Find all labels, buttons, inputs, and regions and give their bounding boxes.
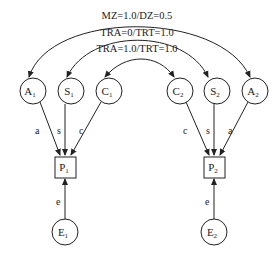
path-label-e2: e — [205, 196, 210, 207]
path-label-a2: a — [228, 125, 233, 136]
node-C2: C2 — [167, 78, 193, 104]
node-C1: C1 — [96, 78, 122, 104]
path-label-s2: s — [206, 125, 210, 136]
arc-C1-C2 — [105, 59, 174, 77]
path-label-c1: c — [79, 125, 84, 136]
arc-label-outer: MZ=1.0/DZ=0.5 — [102, 10, 173, 21]
arc-label-inner: TRA=1.0/TRT=1.0 — [96, 43, 177, 54]
node-S2: S2 — [204, 78, 230, 104]
path-label-s1: s — [57, 125, 61, 136]
path-label-c2: c — [183, 125, 188, 136]
arc-label-middle: TRA=0/TRT=1.0 — [100, 27, 173, 38]
path-label-e1: e — [56, 196, 61, 207]
twin-model-diagram: MZ=1.0/DZ=0.5 TRA=0/TRT=1.0 TRA=1.0/TRT=… — [0, 0, 273, 256]
node-P2: P2 — [204, 157, 225, 178]
node-P1: P1 — [55, 157, 76, 178]
node-S1: S1 — [58, 78, 84, 104]
path-label-a1: a — [35, 125, 40, 136]
node-E2: E2 — [201, 219, 227, 245]
path-c1 — [71, 102, 101, 155]
node-A1: A1 — [20, 78, 46, 104]
path-a2 — [220, 102, 248, 155]
node-E1: E1 — [52, 219, 78, 245]
node-A2: A2 — [242, 78, 268, 104]
